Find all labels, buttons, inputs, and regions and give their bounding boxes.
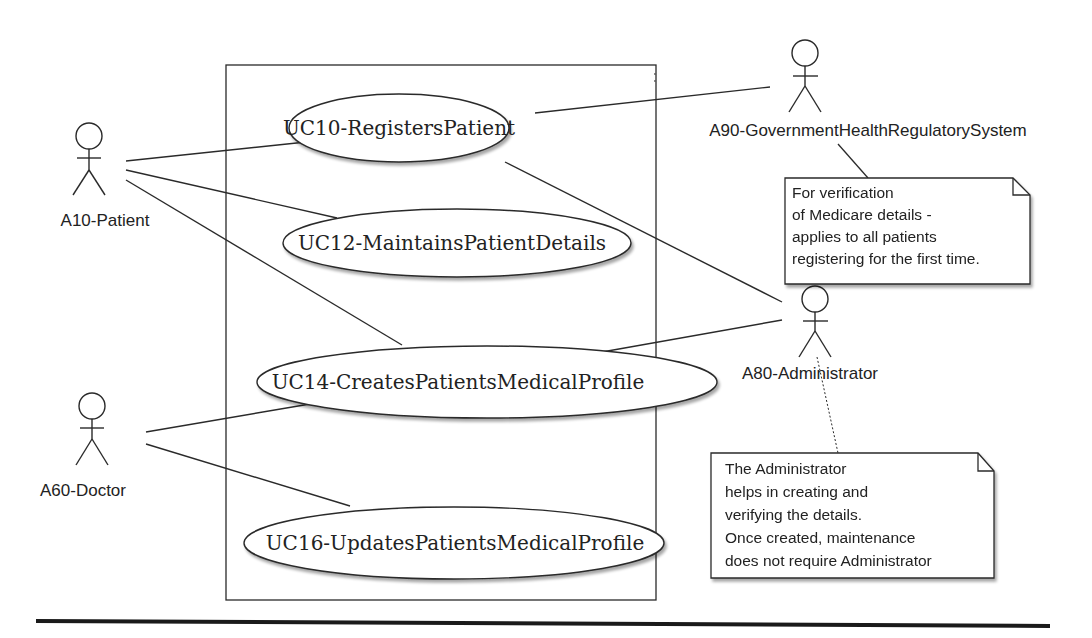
note-line: Once created, maintenance <box>725 529 915 546</box>
stick-figure-icon <box>799 286 831 357</box>
actor-label: A80-Administrator <box>742 364 878 383</box>
association-a80-uc14[interactable] <box>602 320 782 352</box>
use-case-label: UC12-MaintainsPatientDetails <box>298 231 606 255</box>
note-line: does not require Administrator <box>725 552 932 569</box>
note-verification-anchor-line <box>838 144 868 178</box>
stick-figure-icon <box>73 123 105 195</box>
note-administrator: The Administrator helps in creating and … <box>711 453 994 578</box>
use-case-label: UC10-RegistersPatient <box>283 116 515 140</box>
stick-figure-icon <box>76 393 108 465</box>
use-case-diagram: UC10-RegistersPatient UC12-MaintainsPati… <box>0 0 1092 638</box>
association-a60-uc14[interactable] <box>146 404 310 432</box>
actor-label: A10-Patient <box>61 211 150 230</box>
actor-label: A60-Doctor <box>40 481 126 500</box>
note-line: The Administrator <box>725 460 846 477</box>
use-case-uc10[interactable]: UC10-RegistersPatient <box>283 94 515 162</box>
use-case-uc12[interactable]: UC12-MaintainsPatientDetails <box>283 209 631 277</box>
use-case-label: UC14-CreatesPatientsMedicalProfile <box>272 370 645 394</box>
association-a60-uc16[interactable] <box>146 444 350 506</box>
footer-rule <box>36 621 1050 626</box>
actor-a60-doctor[interactable]: A60-Doctor <box>40 393 126 500</box>
note-line: helps in creating and <box>725 483 868 500</box>
actor-label: A90-GovernmentHealthRegulatorySystem <box>709 121 1026 140</box>
actor-a90-government-health-regulatory-system[interactable]: A90-GovernmentHealthRegulatorySystem <box>709 40 1026 140</box>
use-case-uc14[interactable]: UC14-CreatesPatientsMedicalProfile <box>257 346 717 418</box>
association-a10-uc12[interactable] <box>126 170 337 218</box>
note-line: verifying the details. <box>725 506 862 523</box>
note-line: For verification <box>792 184 894 201</box>
use-case-uc16[interactable]: UC16-UpdatesPatientsMedicalProfile <box>244 507 664 579</box>
use-case-label: UC16-UpdatesPatientsMedicalProfile <box>266 531 645 555</box>
note-line: applies to all patients <box>792 228 937 245</box>
association-a10-uc10[interactable] <box>126 142 306 161</box>
note-line: of Medicare details - <box>792 206 932 223</box>
actor-a80-administrator[interactable]: A80-Administrator <box>742 286 878 383</box>
association-a90-uc10[interactable] <box>535 87 770 113</box>
note-verification: For verification of Medicare details - a… <box>785 178 1030 284</box>
note-line: registering for the first time. <box>792 250 980 267</box>
stick-figure-icon <box>789 40 821 112</box>
actor-a10-patient[interactable]: A10-Patient <box>61 123 150 230</box>
